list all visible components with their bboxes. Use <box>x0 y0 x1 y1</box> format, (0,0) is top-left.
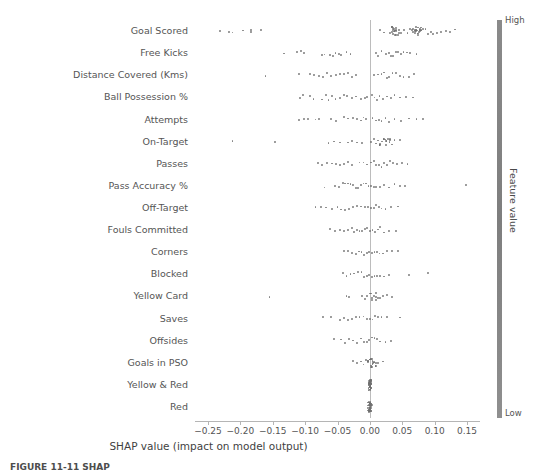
scatter-point <box>321 99 323 101</box>
scatter-point <box>363 341 365 343</box>
scatter-point <box>385 341 387 343</box>
scatter-point <box>355 316 357 318</box>
scatter-point <box>353 273 355 275</box>
scatter-point <box>436 32 438 34</box>
y-axis-label: Saves <box>0 314 188 324</box>
scatter-point <box>408 274 410 276</box>
scatter-point <box>328 142 330 144</box>
scatter-point <box>400 32 402 34</box>
scatter-point <box>399 139 401 141</box>
scatter-point <box>397 250 399 252</box>
x-axis-tick <box>338 421 339 425</box>
scatter-point <box>370 403 372 405</box>
scatter-point <box>375 204 377 206</box>
y-axis-label: Free Kicks <box>0 48 188 58</box>
scatter-point <box>347 229 349 231</box>
scatter-point <box>343 163 345 165</box>
scatter-point <box>335 163 337 165</box>
scatter-point <box>366 341 368 343</box>
scatter-point <box>440 31 442 33</box>
scatter-point <box>346 275 348 277</box>
scatter-point <box>352 117 354 119</box>
scatter-point <box>368 274 370 276</box>
y-axis-labels: Goal ScoredFree KicksDistance Covered (K… <box>0 20 188 418</box>
x-axis-tick-label: −0.20 <box>227 426 255 436</box>
scatter-point <box>396 163 398 165</box>
scatter-point <box>374 337 376 339</box>
scatter-point <box>335 120 337 122</box>
scatter-point <box>390 97 392 99</box>
scatter-point <box>358 251 360 253</box>
scatter-point <box>363 183 365 185</box>
y-axis-label: Distance Covered (Kms) <box>0 70 188 80</box>
scatter-point <box>274 141 276 143</box>
scatter-point <box>383 184 385 186</box>
scatter-point <box>331 95 333 97</box>
scatter-point <box>343 116 345 118</box>
scatter-point <box>366 96 368 98</box>
scatter-point <box>335 98 337 100</box>
scatter-point <box>379 226 381 228</box>
scatter-point <box>407 32 409 34</box>
scatter-point <box>397 51 399 53</box>
x-axis-tick <box>467 421 468 425</box>
scatter-point <box>352 340 354 342</box>
scatter-point <box>417 34 419 36</box>
scatter-point <box>389 160 391 162</box>
scatter-point <box>347 118 349 120</box>
scatter-point <box>381 208 383 210</box>
scatter-point <box>313 74 315 76</box>
scatter-point <box>346 295 348 297</box>
scatter-point <box>346 51 348 53</box>
scatter-point <box>366 318 368 320</box>
scatter-point <box>342 182 344 184</box>
scatter-point <box>381 50 383 52</box>
scatter-point <box>330 316 332 318</box>
x-axis-tick-label: 0.05 <box>392 426 412 436</box>
scatter-point <box>355 96 357 98</box>
scatter-point <box>375 292 377 294</box>
scatter-point <box>375 143 377 145</box>
x-axis-tick <box>402 421 403 425</box>
scatter-point <box>356 362 358 364</box>
scatter-point <box>322 76 324 78</box>
scatter-point <box>328 99 330 101</box>
scatter-point <box>382 361 384 363</box>
scatter-point <box>333 141 335 143</box>
scatter-point <box>318 75 320 77</box>
scatter-point <box>357 187 359 189</box>
scatter-point <box>399 97 401 99</box>
scatter-point <box>377 297 379 299</box>
scatter-point <box>401 162 403 164</box>
scatter-point <box>375 52 377 54</box>
scatter-point <box>322 316 324 318</box>
scatter-point <box>363 254 365 256</box>
scatter-point <box>377 362 379 364</box>
scatter-point <box>344 183 346 185</box>
scatter-point <box>374 275 376 277</box>
scatter-point <box>353 231 355 233</box>
scatter-point <box>383 232 385 234</box>
scatter-point <box>371 94 373 96</box>
scatter-point <box>364 206 366 208</box>
scatter-point <box>382 295 384 297</box>
scatter-point <box>303 118 305 120</box>
scatter-point <box>339 229 341 231</box>
scatter-point <box>408 76 410 78</box>
scatter-point <box>385 208 387 210</box>
y-axis-label: Goals in PSO <box>0 358 188 368</box>
y-axis-label: Blocked <box>0 269 188 279</box>
scatter-point <box>367 206 369 208</box>
scatter-point <box>317 162 319 164</box>
scatter-point <box>338 186 340 188</box>
scatter-point <box>332 55 334 57</box>
scatter-point <box>370 207 372 209</box>
colorbar-gradient <box>497 20 502 418</box>
scatter-point <box>338 53 340 55</box>
scatter-point <box>381 166 383 168</box>
scatter-point <box>361 271 363 273</box>
scatter-point <box>343 94 345 96</box>
scatter-point <box>363 162 365 164</box>
scatter-point <box>395 72 397 74</box>
scatter-point <box>321 54 323 56</box>
